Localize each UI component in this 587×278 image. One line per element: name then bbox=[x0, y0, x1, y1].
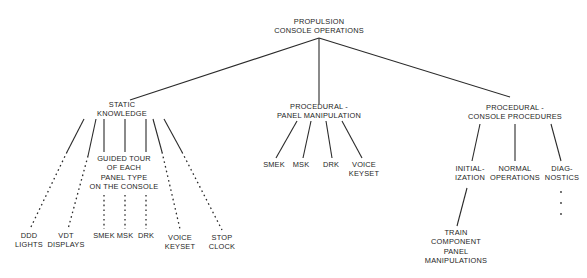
node-label-line: CONSOLE PROCEDURES bbox=[468, 112, 562, 121]
node-label-line: MSK bbox=[293, 160, 310, 169]
node-label-line: DRK bbox=[138, 231, 154, 240]
node-label-line: PROCEDURAL - bbox=[468, 103, 562, 112]
edge-init-train bbox=[457, 188, 467, 226]
hierarchy-diagram: PROPULSION CONSOLE OPERATIONS STATIC KNO… bbox=[0, 0, 587, 278]
node-label-line: CONSOLE OPERATIONS bbox=[274, 26, 364, 35]
node-panel-drk: DRK bbox=[323, 160, 339, 169]
node-label-line: VDT bbox=[47, 231, 84, 240]
continuation-dot bbox=[560, 213, 562, 215]
node-label-line: NOSTICS bbox=[545, 173, 579, 182]
continuation-dot bbox=[560, 202, 562, 204]
node-label-line: PANEL MANIPULATION bbox=[277, 111, 361, 120]
node-label-line: STOP bbox=[209, 233, 235, 242]
edge-static-voice-dashed bbox=[162, 152, 180, 229]
node-label-line: PROPULSION bbox=[274, 17, 364, 26]
node-label-line: KEYSET bbox=[165, 242, 195, 251]
node-label-line: GUIDED TOUR bbox=[90, 154, 159, 163]
node-panel-manipulation: PROCEDURAL - PANEL MANIPULATION bbox=[277, 102, 361, 121]
edge-root-console bbox=[319, 38, 510, 97]
node-label-line: NORMAL bbox=[490, 164, 540, 173]
continuation-dot bbox=[560, 191, 562, 193]
node-tour-smek: SMEK bbox=[93, 231, 115, 240]
edge-static-vdt-solid bbox=[88, 119, 96, 156]
node-label-line: DDD bbox=[15, 231, 43, 240]
node-label-line: INITIAL- bbox=[455, 164, 485, 173]
edge-panel-smek bbox=[276, 121, 297, 158]
node-label-line: DRK bbox=[323, 160, 339, 169]
node-label-line: LIGHTS bbox=[15, 240, 43, 249]
node-initialization: INITIAL- IZATION bbox=[455, 164, 485, 183]
node-label-line: DIAG- bbox=[545, 164, 579, 173]
node-tour-drk: DRK bbox=[138, 231, 154, 240]
node-ddd-lights: DDD LIGHTS bbox=[15, 231, 43, 250]
edge-console-init bbox=[472, 124, 480, 161]
edge-static-ddd-dashed bbox=[30, 152, 67, 229]
edge-root-static bbox=[130, 38, 319, 100]
edge-static-stop-dashed bbox=[182, 152, 222, 230]
node-panel-voice-keyset: VOICE KEYSET bbox=[349, 160, 379, 179]
node-label-line: KNOWLEDGE bbox=[97, 109, 147, 118]
node-label-line: VOICE bbox=[165, 233, 195, 242]
node-static-voice-keyset: VOICE KEYSET bbox=[165, 233, 195, 252]
node-label-line: SMEK bbox=[263, 160, 285, 169]
node-label-line: IZATION bbox=[455, 173, 485, 182]
edge-panel-voice bbox=[342, 121, 362, 158]
node-label-line: MANIPULATIONS bbox=[425, 256, 487, 265]
node-console-procedures: PROCEDURAL - CONSOLE PROCEDURES bbox=[468, 103, 562, 122]
node-label-line: PROCEDURAL - bbox=[277, 102, 361, 111]
node-label-line: SMEK bbox=[93, 231, 115, 240]
node-diagnostics: DIAG- NOSTICS bbox=[545, 164, 579, 183]
node-label-line: DISPLAYS bbox=[47, 240, 84, 249]
node-label-line: COMPONENT bbox=[425, 237, 487, 246]
node-label-line: MSK bbox=[117, 231, 134, 240]
node-label-line: OF EACH bbox=[90, 163, 159, 172]
node-label-line: PANEL bbox=[425, 247, 487, 256]
node-label-line: ON THE CONSOLE bbox=[90, 182, 159, 191]
node-normal-operations: NORMAL OPERATIONS bbox=[490, 164, 540, 183]
node-panel-msk: MSK bbox=[293, 160, 310, 169]
edge-panel-drk bbox=[326, 121, 332, 158]
edge-static-ddd-solid bbox=[67, 119, 84, 152]
node-label-line: VOICE bbox=[349, 160, 379, 169]
node-panel-smek: SMEK bbox=[263, 160, 285, 169]
node-train-component-panel-manipulations: TRAIN COMPONENT PANEL MANIPULATIONS bbox=[425, 228, 487, 266]
node-label-line: CLOCK bbox=[209, 242, 235, 251]
node-stop-clock: STOP CLOCK bbox=[209, 233, 235, 252]
edge-console-diag bbox=[551, 124, 561, 161]
node-tour-msk: MSK bbox=[117, 231, 134, 240]
node-label-line: OPERATIONS bbox=[490, 173, 540, 182]
node-label-line: PANEL TYPE bbox=[90, 173, 159, 182]
connector-lines bbox=[0, 0, 587, 278]
node-static-knowledge: STATIC KNOWLEDGE bbox=[97, 100, 147, 119]
node-label-line: TRAIN bbox=[425, 228, 487, 237]
node-guided-tour: GUIDED TOUR OF EACH PANEL TYPE ON THE CO… bbox=[90, 154, 159, 192]
edge-static-stop-solid bbox=[164, 119, 182, 152]
node-label-line: KEYSET bbox=[349, 169, 379, 178]
node-vdt-displays: VDT DISPLAYS bbox=[47, 231, 84, 250]
node-label-line: STATIC bbox=[97, 100, 147, 109]
node-propulsion-console-operations: PROPULSION CONSOLE OPERATIONS bbox=[274, 17, 364, 36]
edge-static-voice-solid bbox=[153, 119, 162, 152]
edge-panel-msk bbox=[303, 121, 311, 158]
edge-static-vdt-dashed bbox=[68, 156, 88, 229]
